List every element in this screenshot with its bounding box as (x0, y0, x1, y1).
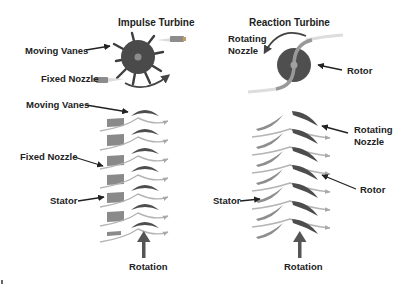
label-rotor-cascade: Rotor (360, 184, 386, 195)
pointer-arrow-icon (86, 105, 128, 112)
impulse-turbine-title: Impulse Turbine (118, 17, 195, 28)
label-fixed-nozzle-top: Fixed Nozzle (41, 73, 99, 84)
pointer-arrow-icon (74, 157, 103, 166)
reaction-cascade (252, 111, 330, 239)
rotation-arrow-icon (293, 231, 307, 258)
label-stator-reaction: Stator (213, 195, 241, 206)
pointer-arrow-icon (318, 65, 342, 70)
label-rotating-nozzle-top-2: Nozzle (228, 45, 258, 56)
label-rotor-top: Rotor (347, 65, 373, 76)
pointer-arrow-icon (322, 175, 356, 189)
reaction-turbine-title: Reaction Turbine (249, 17, 330, 28)
label-fixed-nozzle-cascade: Fixed Nozzle (20, 151, 78, 162)
label-rotating-nozzle-cascade-1: Rotating (354, 124, 393, 135)
label-rotating-nozzle-cascade-2: Nozzle (354, 136, 384, 147)
rotation-arrow-icon (137, 231, 151, 258)
label-stator-impulse: Stator (50, 195, 78, 206)
pointer-arrow-icon (78, 197, 104, 201)
pointer-arrow-icon (322, 126, 348, 133)
stray-mark (1, 280, 3, 284)
pointer-arrow-icon (240, 199, 260, 201)
impulse-nozzle-top-icon (157, 36, 186, 42)
pointer-arrow-icon (86, 46, 110, 50)
label-moving-vanes-top: Moving Vanes (25, 45, 88, 56)
label-rotating-nozzle-top-1: Rotating (228, 33, 267, 44)
impulse-cascade (100, 110, 168, 242)
label-moving-vanes-cascade: Moving Vanes (26, 99, 89, 110)
label-rotation-reaction: Rotation (284, 261, 323, 272)
label-rotation-impulse: Rotation (129, 261, 168, 272)
turbine-diagram: Impulse Turbine Moving Vanes Fixed Nozzl… (0, 0, 412, 290)
